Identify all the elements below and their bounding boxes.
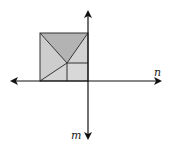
- small-rectangle: [67, 63, 88, 81]
- axis-label-n: n: [154, 66, 161, 79]
- square-figure: [40, 33, 88, 81]
- axis-label-m: m: [71, 129, 81, 142]
- reflection-diagram: n m: [0, 0, 174, 149]
